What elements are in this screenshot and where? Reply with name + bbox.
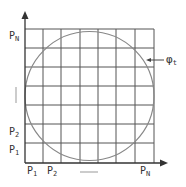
x-label-p2: P2 [47,166,57,178]
y-label-p1: P1 [9,145,19,157]
x-label-pn: PN [140,166,150,178]
y-label-p2: P2 [9,127,19,139]
grid [25,29,154,163]
y-label-pn: PN [9,31,19,43]
diagram-canvas [0,0,186,187]
y-axis-arrow-icon [22,11,29,19]
phi-label: φt [166,54,177,67]
phi-arrow-icon [146,58,151,62]
phi-pointer [146,58,164,62]
x-label-p1: P1 [27,166,37,178]
x-axis-arrow-icon [160,160,168,167]
y-axis [22,11,29,163]
